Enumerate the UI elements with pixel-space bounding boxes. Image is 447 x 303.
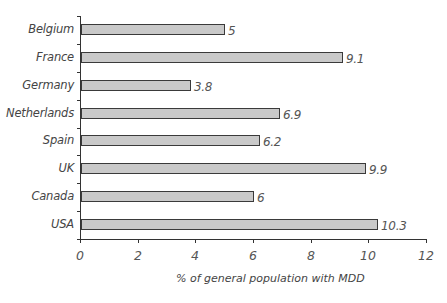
category-label: Germany [22, 78, 74, 92]
category-label: Belgium [28, 22, 74, 36]
x-tick [253, 239, 254, 243]
x-tick-label: 6 [249, 248, 257, 263]
y-tick [77, 100, 81, 101]
value-label: 10.3 [381, 219, 407, 233]
y-tick [77, 44, 81, 45]
category-label: France [36, 50, 74, 64]
bar-germany [81, 80, 191, 91]
x-tick-label: 4 [191, 248, 199, 263]
x-tick-label: 8 [307, 248, 315, 263]
category-label: Canada [31, 189, 74, 203]
x-tick-label: 12 [418, 248, 434, 263]
y-tick [77, 155, 81, 156]
x-tick [311, 239, 312, 243]
x-tick-label: 2 [134, 248, 142, 263]
y-tick [77, 211, 81, 212]
x-tick-label: 0 [76, 248, 84, 263]
category-label: UK [58, 161, 74, 175]
bar-chart: 024681012 Belgium5France9.1Germany3.8Net… [0, 0, 447, 303]
bar-netherlands [81, 108, 280, 119]
value-label: 9.9 [369, 163, 387, 177]
bar-belgium [81, 24, 225, 35]
category-label: Spain [43, 133, 74, 147]
value-label: 6.2 [263, 135, 281, 149]
y-tick [77, 128, 81, 129]
x-tick [138, 239, 139, 243]
bar-france [81, 52, 343, 63]
x-tick [195, 239, 196, 243]
value-label: 6 [257, 191, 264, 205]
category-label: USA [51, 217, 74, 231]
bar-spain [81, 135, 260, 146]
y-tick [77, 16, 81, 17]
y-tick [77, 183, 81, 184]
x-tick [426, 239, 427, 243]
x-axis-title: % of general population with MDD [176, 272, 365, 285]
x-tick [368, 239, 369, 243]
category-label: Netherlands [6, 106, 74, 120]
value-label: 3.8 [194, 80, 212, 94]
bar-usa [81, 219, 378, 230]
bar-uk [81, 163, 366, 174]
value-label: 6.9 [283, 108, 301, 122]
x-tick [80, 239, 81, 243]
x-tick-label: 10 [360, 248, 376, 263]
y-tick [77, 72, 81, 73]
value-label: 5 [228, 24, 235, 38]
bar-canada [81, 191, 254, 202]
value-label: 9.1 [346, 52, 364, 66]
